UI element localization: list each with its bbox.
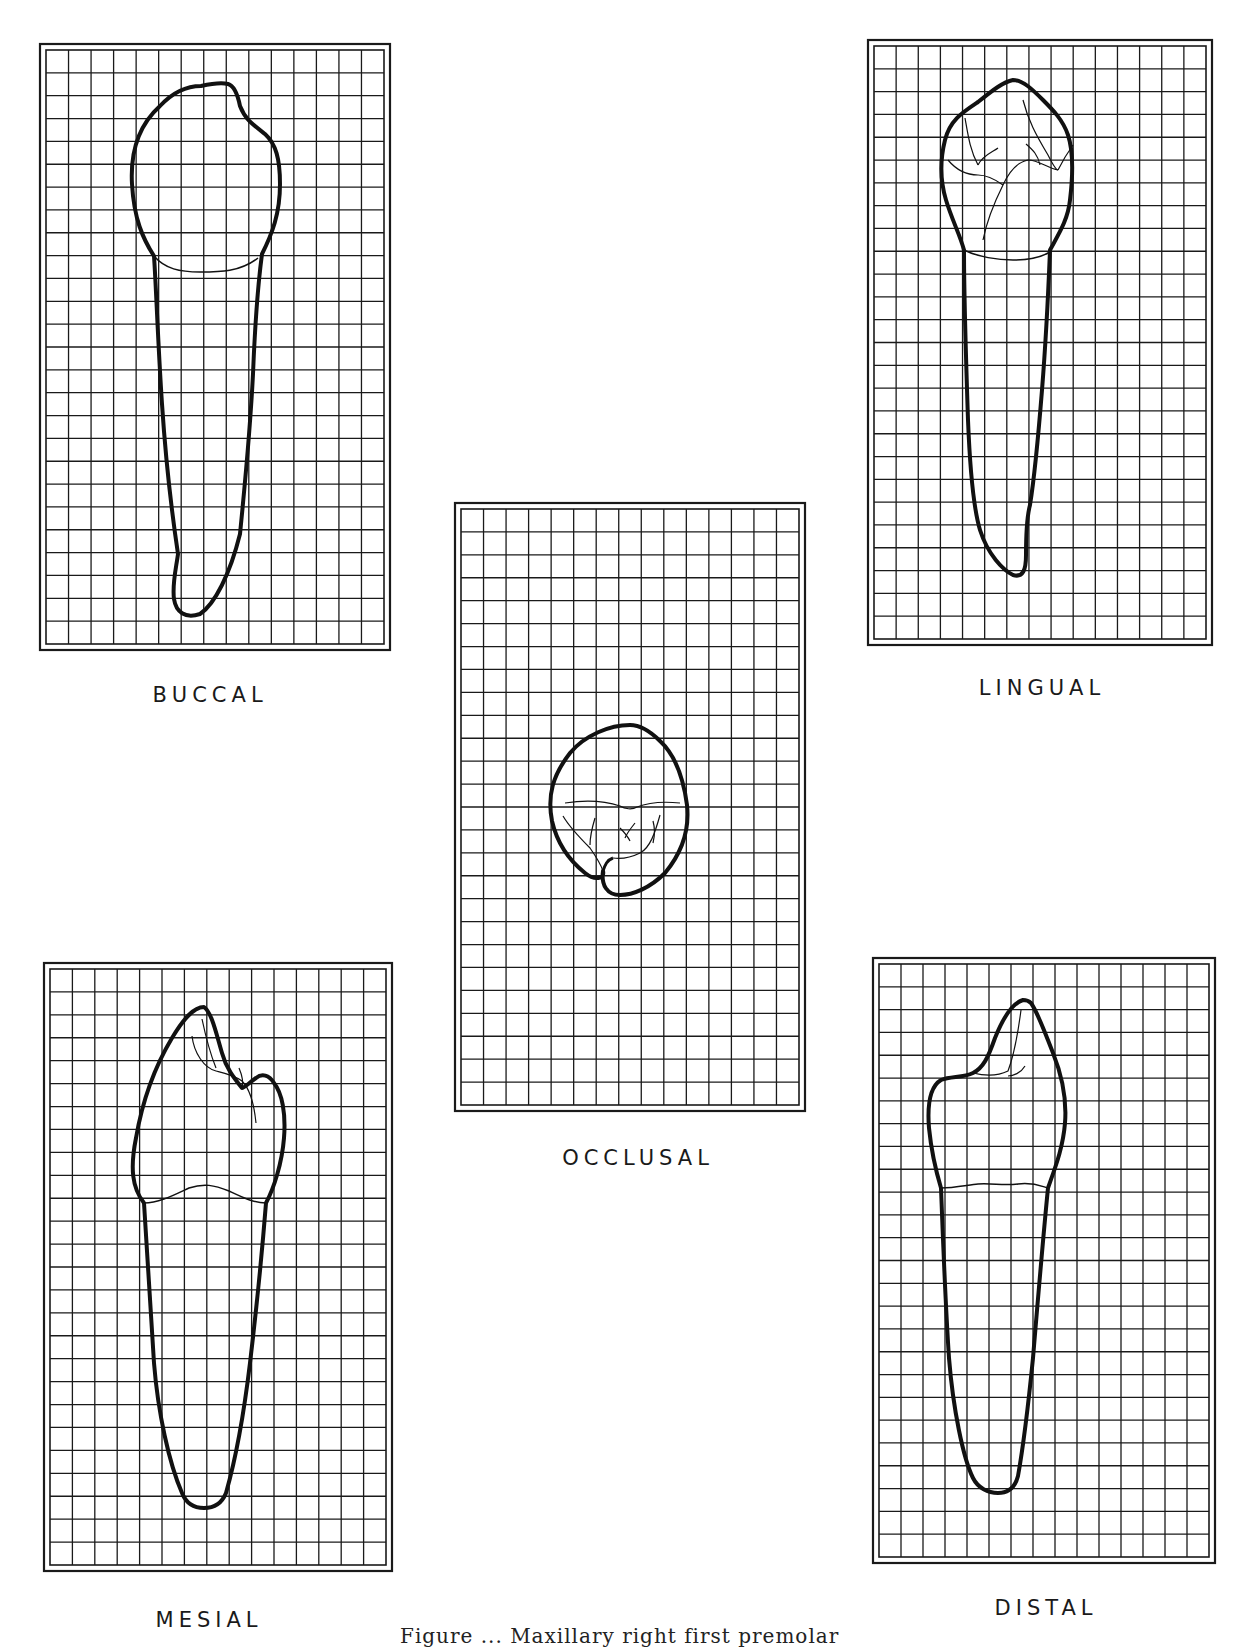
- grid-lines: [44, 963, 392, 1571]
- lingual-grid: [868, 40, 1212, 645]
- occlusal-view-panel: [455, 503, 805, 1111]
- distal-cej-line: [941, 1183, 1048, 1188]
- buccal-grid: [40, 44, 390, 650]
- mesial-ridge-lines: [192, 1019, 256, 1123]
- buccal-view-panel: [40, 44, 390, 650]
- lingual-view-panel: [868, 40, 1212, 645]
- grid-lines: [455, 503, 805, 1111]
- mesial-grid: [44, 963, 392, 1571]
- grid-lines: [873, 958, 1215, 1563]
- distal-view-panel: [873, 958, 1215, 1563]
- occlusal-groove-lines: [563, 801, 680, 871]
- occlusal-label: OCCLUSAL: [562, 1146, 714, 1170]
- grid-lines: [40, 44, 390, 650]
- buccal-cej-line: [154, 256, 258, 272]
- figure-caption: Figure ... Maxillary right first premola…: [400, 1624, 839, 1648]
- distal-label: DISTAL: [995, 1596, 1098, 1620]
- lingual-label: LINGUAL: [979, 676, 1105, 700]
- occlusal-grid: [455, 503, 805, 1111]
- mesial-tooth-outline: [133, 1007, 285, 1508]
- mesial-label: MESIAL: [156, 1608, 263, 1632]
- mesial-view-panel: [44, 963, 392, 1571]
- lingual-groove-lines: [948, 100, 1073, 240]
- buccal-label: BUCCAL: [152, 683, 267, 707]
- grid-lines: [868, 40, 1212, 645]
- distal-grid: [873, 958, 1215, 1563]
- buccal-tooth-outline: [132, 83, 280, 615]
- occlusal-outline-inner-notch: [603, 858, 613, 871]
